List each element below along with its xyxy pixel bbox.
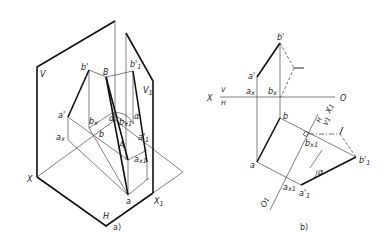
line-a-ax1 bbox=[128, 178, 149, 195]
label-x: X bbox=[26, 175, 33, 184]
label-a: a bbox=[250, 161, 255, 170]
label-x1: X1 bbox=[323, 102, 336, 116]
label-a: a bbox=[126, 197, 131, 206]
dash-b1-prime bbox=[340, 134, 356, 157]
label-b-prime: b' bbox=[81, 63, 88, 72]
label-v: V bbox=[40, 70, 46, 79]
segment-a-prime-b-prime bbox=[257, 43, 280, 77]
label-v1: V1 bbox=[322, 116, 333, 127]
segment-a1-b1-prime bbox=[301, 157, 356, 185]
alpha-ref-line bbox=[310, 150, 322, 168]
label-b-prime: b' bbox=[277, 33, 284, 42]
label-b1-prime: b'1 bbox=[130, 60, 141, 71]
tick-bx1 bbox=[340, 127, 343, 134]
figure-b: X V H O b' a' ax bx b a H V1 X1 O1 bbox=[206, 33, 370, 232]
label-x: X bbox=[206, 94, 213, 103]
line-a-a1-prime bbox=[257, 162, 301, 185]
figure-a: V X H X1 V1 B b' b'1 a' bx α bx1 α b a'1… bbox=[26, 21, 183, 232]
caption-b: b) bbox=[300, 223, 308, 232]
dash-bx bbox=[281, 68, 294, 97]
label-x1: X1 bbox=[153, 197, 164, 208]
label-v1: V1 bbox=[143, 86, 153, 97]
label-v: V bbox=[221, 86, 226, 94]
label-h: H bbox=[221, 99, 226, 107]
label-o: O bbox=[340, 94, 346, 103]
plane-h-edge-right bbox=[153, 172, 183, 193]
segment-a-prime-b-prime bbox=[68, 70, 89, 117]
line-B-b1-prime bbox=[106, 71, 133, 77]
label-bx1: bx1 bbox=[119, 118, 132, 128]
label-bx: bx bbox=[89, 117, 98, 127]
label-alpha-2: α bbox=[134, 112, 140, 121]
label-h: H bbox=[103, 212, 109, 221]
label-alpha: α bbox=[318, 168, 324, 177]
descriptive-geometry-figure: V X H X1 V1 B b' b'1 a' bx α bx1 α b a'1… bbox=[0, 0, 391, 249]
line-b-b1-prime bbox=[280, 118, 356, 157]
label-ax1: ax1 bbox=[134, 155, 147, 165]
label-alpha-1: α bbox=[109, 114, 115, 123]
label-B: B bbox=[103, 68, 109, 77]
label-o1: O1 bbox=[259, 196, 272, 209]
segment-a-b bbox=[257, 118, 280, 162]
label-ax1: ax1 bbox=[283, 183, 296, 193]
segment-B-a bbox=[106, 77, 128, 195]
label-a-prime: a' bbox=[58, 111, 65, 120]
caption-a: a) bbox=[113, 223, 121, 232]
label-ax: ax bbox=[56, 133, 65, 143]
label-b: b bbox=[99, 130, 104, 139]
label-ax: ax bbox=[246, 87, 255, 97]
axis-x1 bbox=[270, 114, 318, 210]
label-A: A bbox=[118, 141, 124, 150]
plane-h-outline bbox=[37, 177, 153, 226]
label-a-prime: a' bbox=[248, 72, 255, 81]
label-a1-prime: a'1 bbox=[299, 189, 310, 200]
label-bx: bx bbox=[268, 87, 277, 97]
axis-x-line bbox=[37, 120, 115, 177]
dash-b-prime bbox=[280, 43, 294, 68]
label-b1-prime: b'1 bbox=[359, 156, 370, 167]
label-bx1: bx1 bbox=[305, 139, 318, 149]
